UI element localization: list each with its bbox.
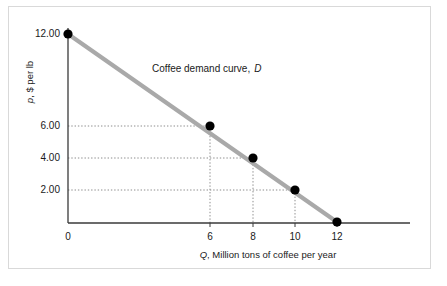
figure-container: 12.00 6.00 4.00 2.00 0 6 8 10 12 p, $ pe… — [0, 0, 447, 286]
y-tick-label-12: 12.00 — [35, 28, 60, 39]
data-point-10-2 — [290, 185, 299, 194]
data-point-6-6 — [205, 121, 214, 130]
x-tick-label-12: 12 — [331, 231, 343, 242]
horizontal-leader-lines — [68, 126, 295, 190]
demand-curve-label-text: Coffee demand curve, — [152, 63, 250, 74]
data-point-0-12 — [63, 29, 72, 38]
y-tick-label-4: 4.00 — [41, 152, 61, 163]
y-tick-label-6: 6.00 — [41, 120, 61, 131]
x-tick-label-0: 0 — [65, 231, 71, 242]
data-point-12-0 — [332, 217, 341, 226]
x-tick-label-8: 8 — [250, 231, 256, 242]
y-axis-title: p, $ per lb — [24, 61, 35, 104]
x-tick-label-6: 6 — [207, 231, 213, 242]
demand-curve-label: Coffee demand curve,D — [152, 63, 261, 74]
x-axis-title: Q, Million tons of coffee per year — [200, 249, 337, 260]
y-axis-title-rest: , $ per lb — [24, 61, 35, 98]
demand-curve-chart: 12.00 6.00 4.00 2.00 0 6 8 10 12 p, $ pe… — [0, 0, 447, 286]
data-point-8-4 — [248, 153, 257, 162]
x-tick-label-10: 10 — [289, 231, 301, 242]
y-tick-label-2: 2.00 — [41, 184, 61, 195]
x-axis-title-rest: , Million tons of coffee per year — [207, 249, 336, 260]
demand-curve-label-variable: D — [254, 63, 261, 74]
